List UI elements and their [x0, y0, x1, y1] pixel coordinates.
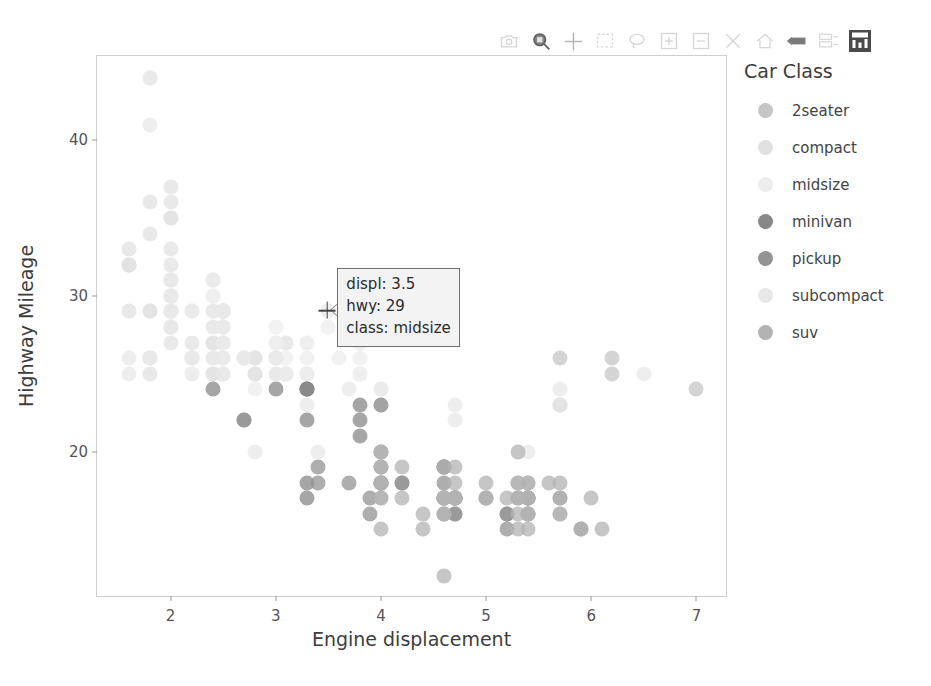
scatter-point[interactable] [510, 522, 525, 537]
scatter-point[interactable] [373, 491, 388, 506]
scatter-point[interactable] [636, 366, 651, 381]
scatter-point[interactable] [479, 491, 494, 506]
scatter-point[interactable] [373, 475, 388, 490]
scatter-point[interactable] [584, 491, 599, 506]
scatter-point[interactable] [689, 382, 704, 397]
scatter-point[interactable] [163, 210, 178, 225]
scatter-point[interactable] [237, 413, 252, 428]
scatter-point[interactable] [216, 351, 231, 366]
scatter-point[interactable] [163, 273, 178, 288]
scatter-point[interactable] [363, 506, 378, 521]
scatter-point[interactable] [510, 475, 525, 490]
scatter-point[interactable] [142, 366, 157, 381]
legend-item-subcompact[interactable]: subcompact [742, 277, 922, 314]
scatter-point[interactable] [416, 506, 431, 521]
scatter-point[interactable] [447, 413, 462, 428]
scatter-point[interactable] [237, 351, 252, 366]
scatter-point[interactable] [163, 195, 178, 210]
scatter-point[interactable] [300, 366, 315, 381]
scatter-point[interactable] [573, 522, 588, 537]
autoscale-icon[interactable] [719, 27, 747, 55]
scatter-point[interactable] [373, 444, 388, 459]
scatter-point[interactable] [342, 475, 357, 490]
scatter-point[interactable] [300, 413, 315, 428]
scatter-point[interactable] [184, 335, 199, 350]
scatter-point[interactable] [310, 460, 325, 475]
plotly-modebar[interactable] [495, 26, 895, 56]
scatter-point[interactable] [373, 460, 388, 475]
scatter-point[interactable] [342, 382, 357, 397]
scatter-point[interactable] [184, 366, 199, 381]
plotly-logo-icon[interactable] [847, 28, 873, 54]
scatter-point[interactable] [300, 351, 315, 366]
scatter-point[interactable] [300, 335, 315, 350]
scatter-point[interactable] [121, 257, 136, 272]
scatter-point[interactable] [163, 304, 178, 319]
scatter-point[interactable] [352, 351, 367, 366]
zoom-out-icon[interactable] [687, 27, 715, 55]
scatter-point[interactable] [163, 320, 178, 335]
scatter-point[interactable] [163, 242, 178, 257]
scatter-point[interactable] [510, 444, 525, 459]
scatter-point[interactable] [142, 70, 157, 85]
scatter-point[interactable] [352, 429, 367, 444]
scatter-point[interactable] [205, 382, 220, 397]
scatter-point[interactable] [163, 257, 178, 272]
scatter-point[interactable] [416, 522, 431, 537]
hover-compare-icon[interactable] [815, 27, 843, 55]
scatter-point[interactable] [594, 522, 609, 537]
scatter-point[interactable] [447, 460, 462, 475]
scatter-point[interactable] [310, 475, 325, 490]
lasso-select-icon[interactable] [623, 27, 651, 55]
scatter-point[interactable] [552, 491, 567, 506]
scatter-point[interactable] [216, 366, 231, 381]
scatter-point[interactable] [268, 382, 283, 397]
scatter-point[interactable] [352, 413, 367, 428]
scatter-point[interactable] [321, 320, 336, 335]
scatter-point[interactable] [605, 351, 620, 366]
scatter-point[interactable] [216, 320, 231, 335]
scatter-point[interactable] [121, 304, 136, 319]
scatter-point[interactable] [394, 460, 409, 475]
scatter-point[interactable] [279, 366, 294, 381]
scatter-point[interactable] [121, 366, 136, 381]
scatter-point[interactable] [510, 506, 525, 521]
scatter-point[interactable] [142, 117, 157, 132]
scatter-point[interactable] [552, 506, 567, 521]
reset-axes-icon[interactable] [751, 27, 779, 55]
scatter-point[interactable] [373, 522, 388, 537]
scatter-point[interactable] [216, 335, 231, 350]
scatter-point[interactable] [268, 320, 283, 335]
scatter-point[interactable] [352, 397, 367, 412]
scatter-point[interactable] [552, 382, 567, 397]
scatter-point[interactable] [268, 351, 283, 366]
scatter-point[interactable] [247, 366, 262, 381]
scatter-point[interactable] [437, 569, 452, 584]
scatter-point[interactable] [447, 397, 462, 412]
legend-item-midsize[interactable]: midsize [742, 166, 922, 203]
scatter-point[interactable] [352, 366, 367, 381]
scatter-point[interactable] [216, 304, 231, 319]
scatter-point[interactable] [268, 335, 283, 350]
scatter-point[interactable] [447, 475, 462, 490]
scatter-point[interactable] [394, 491, 409, 506]
scatter-point[interactable] [510, 491, 525, 506]
legend-item-pickup[interactable]: pickup [742, 240, 922, 277]
scatter-point[interactable] [121, 351, 136, 366]
download-plot-icon[interactable] [495, 27, 523, 55]
scatter-point[interactable] [142, 304, 157, 319]
scatter-point[interactable] [605, 366, 620, 381]
scatter-point[interactable] [479, 475, 494, 490]
scatter-point[interactable] [247, 382, 262, 397]
legend-item-2seater[interactable]: 2seater [742, 92, 922, 129]
scatter-point[interactable] [331, 351, 346, 366]
scatter-point[interactable] [163, 179, 178, 194]
scatter-point[interactable] [300, 382, 315, 397]
scatter-point[interactable] [184, 351, 199, 366]
pan-icon[interactable] [559, 27, 587, 55]
scatter-point[interactable] [163, 335, 178, 350]
scatter-point[interactable] [142, 195, 157, 210]
scatter-point[interactable] [142, 351, 157, 366]
scatter-point[interactable] [300, 397, 315, 412]
legend-item-suv[interactable]: suv [742, 314, 922, 351]
